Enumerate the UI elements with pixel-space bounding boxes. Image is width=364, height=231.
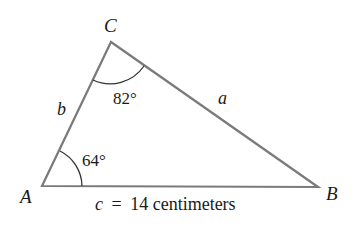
angle-label-a: 64° (82, 151, 106, 170)
vertex-label-c: C (104, 15, 117, 36)
side-label-b: b (57, 99, 66, 119)
angle-arc-a (60, 151, 82, 186)
angle-arc-c (93, 66, 144, 84)
vertex-label-a: A (18, 186, 32, 207)
side-c-equals: = (112, 194, 122, 214)
triangle-diagram: C A B b a 82° 64° c = 14 centimeters (0, 0, 364, 231)
side-c-value: 14 centimeters (130, 194, 235, 214)
vertex-label-b: B (326, 183, 338, 204)
side-label-a: a (218, 88, 227, 108)
side-label-c: c = 14 centimeters (95, 194, 236, 214)
angle-label-c: 82° (113, 89, 137, 108)
side-c-letter: c (95, 194, 103, 214)
